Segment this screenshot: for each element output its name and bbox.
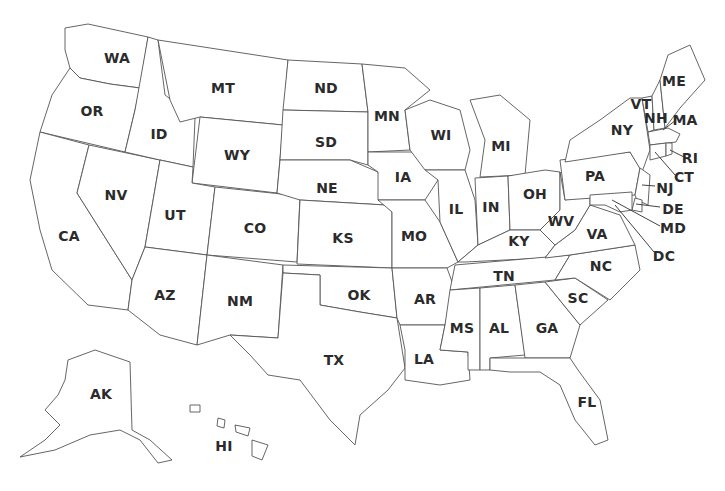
state-label-mo: MO	[401, 228, 427, 244]
state-label-ca: CA	[58, 228, 80, 244]
state-label-nj: NJ	[656, 180, 673, 196]
state-label-mn: MN	[374, 108, 400, 124]
state-label-ct: CT	[674, 169, 694, 185]
state-label-wa: WA	[104, 50, 130, 66]
state-label-mi: MI	[491, 138, 511, 154]
state-label-il: IL	[449, 201, 464, 217]
state-shapes	[20, 24, 705, 463]
state-label-ak: AK	[90, 386, 112, 402]
state-mi[interactable]	[470, 95, 530, 177]
state-label-nh: NH	[644, 110, 668, 126]
state-label-ms: MS	[450, 320, 474, 336]
state-label-hi: HI	[215, 438, 232, 454]
state-ct[interactable]	[650, 143, 666, 160]
state-label-sd: SD	[315, 134, 337, 150]
state-label-ar: AR	[414, 291, 436, 307]
state-label-ne: NE	[316, 180, 338, 196]
state-label-in: IN	[482, 199, 499, 215]
state-label-ia: IA	[395, 169, 411, 185]
state-label-or: OR	[80, 103, 103, 119]
state-label-de: DE	[662, 201, 684, 217]
us-map	[0, 0, 725, 491]
state-label-ks: KS	[332, 230, 353, 246]
state-ri[interactable]	[666, 143, 672, 156]
state-label-ri: RI	[682, 150, 698, 166]
state-label-wv: WV	[548, 213, 575, 229]
state-label-la: LA	[414, 351, 434, 367]
state-label-va: VA	[586, 226, 607, 242]
state-label-sc: SC	[568, 290, 589, 306]
state-label-ky: KY	[508, 233, 529, 249]
state-label-tn: TN	[493, 268, 515, 284]
state-label-ga: GA	[536, 320, 559, 336]
state-label-nd: ND	[314, 80, 338, 96]
state-ak[interactable]	[20, 350, 172, 463]
state-label-co: CO	[244, 220, 267, 236]
state-label-oh: OH	[523, 186, 547, 202]
state-label-nc: NC	[590, 258, 612, 274]
state-label-nm: NM	[227, 293, 253, 309]
state-label-fl: FL	[578, 394, 597, 410]
state-label-tx: TX	[324, 352, 345, 368]
state-label-ok: OK	[347, 287, 370, 303]
state-label-ma: MA	[672, 112, 697, 128]
state-label-pa: PA	[585, 168, 605, 184]
state-label-ut: UT	[164, 207, 185, 223]
state-label-wi: WI	[430, 127, 451, 143]
state-label-ny: NY	[611, 122, 633, 138]
state-label-mt: MT	[211, 80, 235, 96]
state-label-id: ID	[150, 126, 167, 142]
state-label-me: ME	[662, 73, 686, 89]
state-label-al: AL	[489, 320, 509, 336]
state-label-md: MD	[660, 220, 686, 236]
state-label-dc: DC	[653, 248, 675, 264]
state-label-wy: WY	[224, 147, 250, 163]
state-label-nv: NV	[105, 187, 128, 203]
state-label-az: AZ	[154, 287, 175, 303]
